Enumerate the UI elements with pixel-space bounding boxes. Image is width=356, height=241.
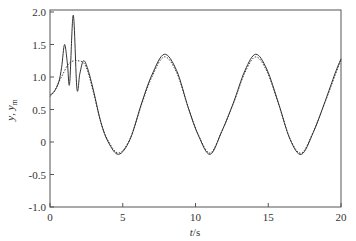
- x-tick-label: 15: [263, 211, 275, 223]
- y-tick-label: -1.0: [29, 201, 47, 213]
- y-axis-label: y, ym: [4, 98, 19, 121]
- y-tick-label: 2.0: [32, 6, 46, 18]
- x-tick-label: 10: [190, 211, 202, 223]
- y-tick-label: 1.0: [32, 71, 46, 83]
- series-y-solid-line: [50, 15, 341, 154]
- y-tick-label: -0.5: [29, 169, 47, 181]
- x-tick-label: 5: [120, 211, 126, 223]
- series-y-dashed-line: [50, 57, 341, 153]
- chart: -1.0-0.500.51.01.52.0 05101520 t/s y, ym: [0, 0, 356, 241]
- y-tick-label: 0.5: [32, 104, 46, 116]
- x-tick-label: 0: [47, 211, 53, 223]
- y-tick-label: 1.5: [32, 39, 46, 51]
- x-tick-label: 20: [336, 211, 348, 223]
- plot-frame: [50, 10, 341, 207]
- x-axis-ticks: 05101520: [47, 203, 347, 223]
- y-tick-label: 0: [41, 136, 47, 148]
- x-axis-label: t/s: [190, 226, 200, 238]
